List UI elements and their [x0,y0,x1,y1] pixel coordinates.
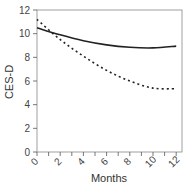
plot-frame [37,10,182,152]
y-tick-label: 0 [24,147,30,158]
y-tick-label: 6 [24,76,30,87]
y-axis: 024681012 [19,5,37,158]
x-tick-label: 0 [29,155,41,167]
line-chart: 024681012 024681012 CES-D Months [0,0,189,187]
x-axis: 024681012 [29,152,182,169]
solid-series-line [37,28,176,48]
y-tick-label: 8 [24,52,30,63]
dashed-series-line [37,19,176,88]
y-axis-title: CES-D [3,65,15,99]
plot-border [37,10,182,152]
x-tick-label: 6 [98,155,110,167]
y-tick-label: 12 [19,5,31,16]
x-tick-label: 8 [121,155,133,167]
x-tick-label: 10 [143,153,159,169]
y-tick-label: 2 [24,123,30,134]
y-tick-label: 10 [19,28,31,39]
series-lines [37,19,176,88]
x-axis-title: Months [91,172,128,184]
x-tick-label: 4 [75,155,87,167]
x-tick-label: 2 [52,155,64,167]
y-tick-label: 4 [24,99,30,110]
x-tick-label: 12 [166,153,182,169]
